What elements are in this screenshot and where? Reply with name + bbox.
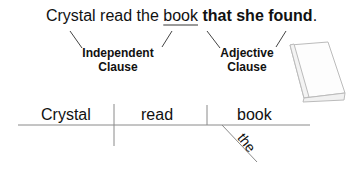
diagram-subject: Crystal xyxy=(41,106,91,124)
pointer-line xyxy=(276,31,286,47)
diagram-verb: read xyxy=(141,106,173,124)
adjective-clause-label: Adjective Clause xyxy=(214,46,280,74)
pointer-line xyxy=(162,31,172,47)
independent-clause-label: Independent Clause xyxy=(76,46,160,74)
book-icon xyxy=(290,42,345,102)
diagram-lines xyxy=(0,0,363,169)
diagram-object: book xyxy=(237,106,272,124)
